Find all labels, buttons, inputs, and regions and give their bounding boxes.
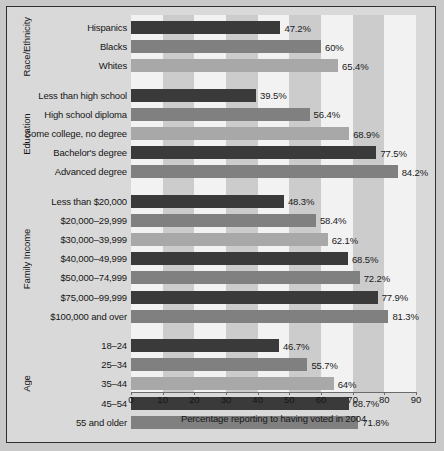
- group-labels: Race/EthnicityEducationFamily IncomeAge: [17, 15, 35, 392]
- tick-label: 80: [379, 394, 390, 405]
- bar: [131, 89, 256, 102]
- bar-value-label: 68.5%: [348, 253, 378, 264]
- bar: [131, 40, 321, 53]
- bar-row: 55.7%: [131, 358, 416, 371]
- category-label: Blacks: [100, 40, 127, 53]
- bar-row: 77.9%: [131, 291, 416, 304]
- bar-value-label: 48.3%: [284, 196, 314, 207]
- bar-row: 46.7%: [131, 339, 416, 352]
- category-label: Hispanics: [87, 21, 127, 34]
- tick-label: 60: [316, 394, 327, 405]
- bar-row: 48.3%: [131, 195, 416, 208]
- category-label: $75,000–99,999: [60, 291, 127, 304]
- bar-value-label: 72.2%: [360, 272, 390, 283]
- group-label: Family Income: [17, 195, 35, 323]
- bar: [131, 59, 338, 72]
- bar-value-label: 39.5%: [256, 90, 286, 101]
- bar-row: 60%: [131, 40, 416, 53]
- bar: [131, 252, 348, 265]
- bar-value-label: 81.3%: [388, 311, 418, 322]
- bar: [131, 108, 310, 121]
- bar-row: 84.2%: [131, 165, 416, 178]
- bar-row: 62.1%: [131, 233, 416, 246]
- bar: [131, 358, 307, 371]
- category-label: $20,000–29,999: [60, 214, 127, 227]
- category-label: $30,000–39,999: [60, 233, 127, 246]
- bar-rows: 47.2%60%65.4%39.5%56.4%68.9%77.5%84.2%48…: [131, 15, 416, 392]
- tick-label: 50: [284, 394, 295, 405]
- bar-row: 56.4%: [131, 108, 416, 121]
- bar-value-label: 77.9%: [378, 292, 408, 303]
- bar: [131, 339, 279, 352]
- bar-row: 47.2%: [131, 21, 416, 34]
- bar: [131, 21, 280, 34]
- tick-label: 30: [221, 394, 232, 405]
- category-label: Some college, no degree: [25, 127, 127, 140]
- bar: [131, 214, 316, 227]
- x-axis-ticks: 0102030405060708090: [131, 394, 416, 410]
- category-label: $100,000 and over: [50, 310, 127, 323]
- tick-label: 90: [411, 394, 422, 405]
- bar-row: 68.9%: [131, 127, 416, 140]
- category-label: Bachelor's degree: [53, 146, 127, 159]
- bar-value-label: 58.4%: [316, 215, 346, 226]
- category-label: 25–34: [101, 358, 127, 371]
- tick-label: 0: [128, 394, 133, 405]
- bar-value-label: 60%: [321, 41, 344, 52]
- bar-row: 68.5%: [131, 252, 416, 265]
- bar: [131, 165, 398, 178]
- category-label: Advanced degree: [55, 165, 127, 178]
- x-axis-label: Percentage reporting to having voted in …: [131, 413, 416, 424]
- tick-label: 10: [157, 394, 168, 405]
- group-label: Race/Ethnicity: [17, 21, 35, 72]
- group-label: Education: [17, 89, 35, 179]
- bar-value-label: 84.2%: [398, 166, 428, 177]
- x-axis-line: [131, 392, 417, 393]
- bar: [131, 146, 376, 159]
- bar-row: 77.5%: [131, 146, 416, 159]
- category-label: High school diploma: [44, 108, 127, 121]
- category-label: Less than $20,000: [51, 195, 127, 208]
- bar-row: 81.3%: [131, 310, 416, 323]
- category-label: 18–24: [101, 339, 127, 352]
- tick-label: 70: [347, 394, 358, 405]
- bar-row: 65.4%: [131, 59, 416, 72]
- category-label: Less than high school: [38, 89, 127, 102]
- bar: [131, 127, 349, 140]
- bar-value-label: 56.4%: [310, 109, 340, 120]
- category-label: 55 and older: [76, 416, 127, 429]
- tick-label: 20: [189, 394, 200, 405]
- bar-row: 64%: [131, 377, 416, 390]
- bar-row: 58.4%: [131, 214, 416, 227]
- bar-value-label: 55.7%: [307, 359, 337, 370]
- bar: [131, 291, 378, 304]
- category-label: $40,000–49,999: [60, 252, 127, 265]
- bar-value-label: 46.7%: [279, 340, 309, 351]
- plot-area: 47.2%60%65.4%39.5%56.4%68.9%77.5%84.2%48…: [131, 15, 416, 392]
- bar-row: 72.2%: [131, 271, 416, 284]
- bar: [131, 233, 328, 246]
- category-label: Whites: [99, 59, 127, 72]
- chart-figure: 47.2%60%65.4%39.5%56.4%68.9%77.5%84.2%48…: [6, 6, 436, 443]
- tick-label: 40: [252, 394, 263, 405]
- category-label: 45–54: [101, 397, 127, 410]
- bar-value-label: 77.5%: [376, 147, 406, 158]
- bar-value-label: 65.4%: [338, 60, 368, 71]
- bar-value-label: 64%: [334, 378, 357, 389]
- bar-value-label: 68.9%: [349, 128, 379, 139]
- bar: [131, 377, 334, 390]
- bar-value-label: 62.1%: [328, 234, 358, 245]
- group-label: Age: [17, 339, 35, 429]
- bar: [131, 271, 360, 284]
- category-label: 35–44: [101, 377, 127, 390]
- bar: [131, 310, 388, 323]
- bar: [131, 195, 284, 208]
- category-label: $50,000–74,999: [60, 271, 127, 284]
- bar-row: 39.5%: [131, 89, 416, 102]
- bar-value-label: 47.2%: [280, 22, 310, 33]
